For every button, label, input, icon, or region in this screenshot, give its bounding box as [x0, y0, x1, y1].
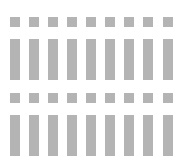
placeholder-square [86, 17, 96, 27]
placeholder-square [10, 93, 20, 103]
placeholder-bar [10, 115, 20, 156]
placeholder-bar [29, 115, 39, 156]
placeholder-bar [105, 39, 115, 80]
placeholder-square [67, 17, 77, 27]
placeholder-square [163, 17, 173, 27]
placeholder-bar [48, 115, 58, 156]
placeholder-grid [0, 0, 186, 167]
placeholder-square [29, 93, 39, 103]
placeholder-square [48, 93, 58, 103]
placeholder-bar [48, 39, 58, 80]
placeholder-square [124, 93, 134, 103]
placeholder-square [143, 93, 153, 103]
placeholder-bar [143, 115, 153, 156]
placeholder-square [48, 17, 58, 27]
placeholder-bar [86, 115, 96, 156]
placeholder-square [105, 93, 115, 103]
placeholder-bar [105, 115, 115, 156]
placeholder-bar [163, 115, 173, 156]
placeholder-bar [163, 39, 173, 80]
placeholder-square [124, 17, 134, 27]
placeholder-bar [67, 115, 77, 156]
placeholder-bar [10, 39, 20, 80]
placeholder-bar [124, 39, 134, 80]
placeholder-bar [143, 39, 153, 80]
placeholder-bar [67, 39, 77, 80]
placeholder-bar [29, 39, 39, 80]
placeholder-square [163, 93, 173, 103]
placeholder-bar [124, 115, 134, 156]
placeholder-square [29, 17, 39, 27]
placeholder-bar [86, 39, 96, 80]
placeholder-square [10, 17, 20, 27]
placeholder-square [86, 93, 96, 103]
placeholder-square [67, 93, 77, 103]
placeholder-square [143, 17, 153, 27]
placeholder-square [105, 17, 115, 27]
